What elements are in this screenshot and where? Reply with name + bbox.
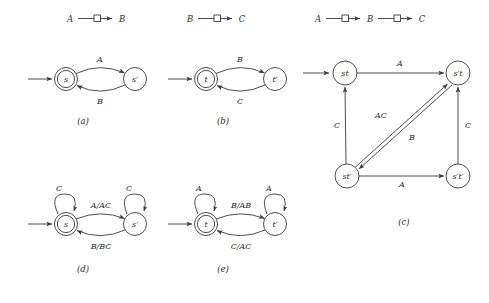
panel-a-caption: (a) [77,116,89,126]
panel-b-state-t-label: t [204,75,208,84]
panel-d-edge-label-A-AC: A/AC [90,201,111,210]
panel-d: s C s′ C A/AC B/BC (d) [28,184,147,274]
panel-e-selfloop-label-A-tprime: A [265,184,272,193]
header-b-box-icon [214,15,221,22]
panel-e-edge-label-C-AC: C/AC [231,242,252,251]
panel-d-state-s-label: s [64,220,68,229]
figure-canvas: B ================= --> A B C ==========… [0,0,489,303]
panel-b-edge-label-C: C [237,97,243,106]
panel-e-edge-label-B-AB: B/AB [230,201,251,210]
panel-a: s s′ A B (a) [28,55,147,126]
panel-e-edge-t-to-tprime[interactable] [216,214,265,219]
panel-e: t A t′ A B/AB C/AC (e) [168,184,287,274]
panel-d-selfloop-s[interactable] [55,194,76,214]
header-a-box-icon [94,15,101,22]
panel-c-state-st-prime-label: st′ [342,172,351,181]
automata-figure: B ================= --> A B C ==========… [0,0,489,303]
header-c: A B C [314,14,426,24]
panel-e-state-t-label: t [204,220,208,229]
panel-e-edge-tprime-to-t[interactable] [217,230,265,236]
header-a-right-symbol: B [118,14,125,24]
panel-d-selfloop-label-C-sprime: C [126,184,132,193]
panel-e-selfloop-label-A-t: A [195,184,202,193]
header-a: A B [66,14,125,24]
panel-c-edge-label-AC: AC [374,111,387,120]
header-b-right-symbol: C [239,14,246,24]
panel-b-edge-label-B: B [236,55,243,64]
panel-d-edge-sprime-to-s[interactable] [77,230,125,236]
panel-c-state-sprime-tprime-label: s′t′ [453,172,464,181]
panel-c-edge-sprimet-to-stprime-diagonal[interactable] [359,85,452,169]
panel-a-edge-s-to-sprime[interactable] [76,68,125,74]
panel-d-selfloop-label-C-s: C [56,184,62,193]
panel-e-caption: (e) [217,264,229,274]
panel-b-caption: (b) [217,116,229,126]
panel-c-caption: (c) [398,217,409,227]
header-c-box-icon-1 [342,15,349,22]
panel-e-state-tprime-label: t′ [272,220,277,229]
panel-b-edge-tprime-to-t[interactable] [217,85,265,91]
panel-c: st s′t st′ s′t′ A C C A AC B (c) [303,59,471,227]
header-b-left-symbol: B [186,14,193,24]
panel-c-edge-label-A-top: A [396,59,403,68]
panel-b-state-tprime-label: t′ [272,75,277,84]
panel-e-selfloop-tprime[interactable] [264,194,285,214]
panel-c-edge-label-A-bottom: A [398,180,405,189]
panel-c-edge-label-C-right: C [465,121,471,130]
header-a-left-symbol: A [66,14,73,24]
panel-b: t t′ B C (b) [168,55,287,126]
header-c-symbol-2: B [366,14,373,24]
panel-d-selfloop-sprime[interactable] [124,194,145,214]
panel-c-edge-label-C-left: C [334,121,340,130]
panel-a-edge-label-B: B [96,97,103,106]
panel-a-edge-label-A: A [96,55,103,64]
header-c-symbol-3: C [419,14,426,24]
panel-c-edge-stprime-to-st[interactable] [345,87,346,164]
panel-d-caption: (d) [77,264,89,274]
panel-e-selfloop-t[interactable] [195,194,216,214]
panel-a-edge-sprime-to-s[interactable] [77,85,125,91]
panel-c-edge-stprime-to-sprimet-diagonal[interactable] [356,84,448,167]
header-b: B C [186,14,246,24]
header-c-box-icon-2 [394,15,401,22]
panel-d-edge-s-to-sprime[interactable] [76,214,125,219]
header-c-symbol-1: A [314,14,321,24]
panel-a-state-sprime-label: s′ [132,75,138,84]
panel-b-edge-t-to-tprime[interactable] [216,68,265,74]
panel-d-edge-label-B-BC: B/BC [90,242,112,251]
panel-d-state-sprime-label: s′ [132,220,138,229]
panel-c-edge-label-B: B [408,133,415,142]
panel-c-state-sprime-t-label: s′t [453,69,463,78]
panel-a-state-s-label: s [64,75,68,84]
panel-c-state-st-label: st [341,69,349,78]
